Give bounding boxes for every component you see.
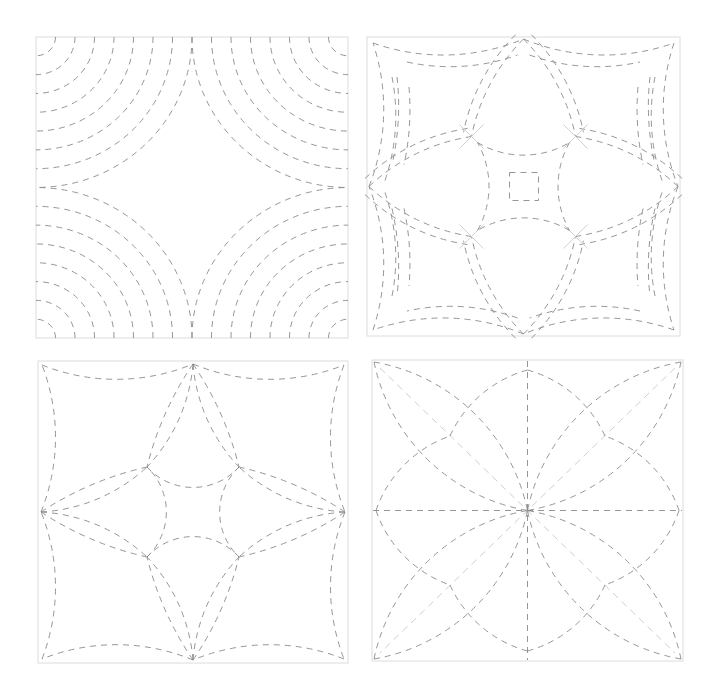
block-concentric-corner-arcs <box>36 37 348 338</box>
corner-arc <box>36 37 114 112</box>
block-four-circle-lens-star <box>38 361 348 663</box>
outer-web-arc <box>524 39 675 55</box>
corner-arc <box>36 37 56 56</box>
outer-web-arc-inner <box>651 77 662 181</box>
corner-arc <box>36 300 75 338</box>
petal-arc-inner <box>193 364 239 467</box>
quilting-patterns-figure <box>0 0 720 694</box>
corner-arc <box>329 37 349 56</box>
outer-concave-arc <box>41 512 56 659</box>
corner-arc <box>36 206 173 338</box>
petal-arc-inner <box>41 512 147 557</box>
block-border <box>367 37 680 336</box>
side-arc <box>404 209 410 287</box>
star-arm <box>576 137 679 187</box>
kite-arc <box>376 436 450 511</box>
star-arm-inner <box>464 35 516 133</box>
corner-arc <box>290 282 349 338</box>
petal-arc-inner <box>239 467 345 512</box>
registration-mark <box>564 225 588 249</box>
circle-arc <box>147 467 239 487</box>
corner-arc <box>231 225 348 338</box>
star-arm <box>369 187 472 237</box>
corner-arc <box>36 37 173 169</box>
corner-arc <box>212 37 349 169</box>
center-square <box>510 173 539 201</box>
corner-arc <box>36 37 95 93</box>
outer-web-arc <box>369 43 384 187</box>
outer-concave-arc <box>42 645 193 660</box>
outer-web-arc <box>524 318 675 334</box>
outer-concave-arc <box>330 365 345 512</box>
outer-web-arc <box>663 187 678 331</box>
corner-arc <box>36 37 153 150</box>
outer-web-arc-inner <box>407 55 518 67</box>
outer-web-arc-inner <box>385 77 396 181</box>
petal-arc-outer <box>239 467 345 512</box>
corner-arc <box>309 37 348 75</box>
petal-arc-inner <box>147 557 193 660</box>
corner-arc <box>36 282 95 338</box>
corner-arc <box>36 225 153 338</box>
corner-arc <box>309 300 348 338</box>
side-arc <box>637 209 643 287</box>
corner-arc <box>36 188 192 339</box>
petal-arc-inner <box>239 512 345 557</box>
circle-arc <box>147 467 166 557</box>
center-star-edge <box>558 143 569 231</box>
outer-concave-arc <box>193 645 344 660</box>
corner-arc <box>36 319 56 338</box>
petal-arc-outer <box>239 512 345 557</box>
kite-arc <box>605 436 679 511</box>
corner-arc <box>270 37 348 112</box>
outer-web-arc-inner <box>530 55 641 67</box>
outer-concave-arc <box>193 364 344 379</box>
outer-concave-arc <box>330 512 345 659</box>
kite-arc <box>605 511 679 586</box>
block-border <box>36 37 348 338</box>
corner-arc <box>329 319 349 338</box>
center-star-edge <box>478 143 570 156</box>
petal-arc-outer <box>193 557 239 660</box>
corner-arc <box>290 37 349 93</box>
corner-arc <box>192 37 348 188</box>
side-arc <box>637 87 643 165</box>
star-arm <box>472 237 524 335</box>
kite-arc <box>528 370 606 436</box>
outer-web-arc <box>369 187 384 331</box>
outer-web-arc-inner <box>385 193 396 297</box>
petal-arc-outer <box>147 364 193 467</box>
block-border <box>38 361 348 663</box>
kite-arc <box>450 585 528 651</box>
corner-arc <box>36 37 75 75</box>
kite-arc <box>528 585 606 651</box>
outer-web-arc-inner <box>651 193 662 297</box>
side-arc <box>404 87 410 165</box>
circle-arc <box>147 537 239 557</box>
corner-arc <box>192 188 348 339</box>
outer-web-arc-inner <box>407 306 518 318</box>
corner-arc <box>231 37 348 150</box>
registration-mark <box>564 125 588 149</box>
center-star-edge <box>478 143 489 231</box>
star-arm <box>472 39 524 137</box>
outer-web-arc <box>663 43 678 187</box>
center-star-edge <box>478 218 570 231</box>
star-arm-inner <box>531 241 583 339</box>
star-arm <box>524 39 576 137</box>
star-arm <box>524 237 576 335</box>
block-spider-web-star <box>365 35 682 338</box>
corner-arc <box>36 37 192 188</box>
petal-arc-outer <box>41 467 147 512</box>
registration-mark <box>460 225 484 249</box>
circle-arc <box>220 467 239 557</box>
outer-web-arc <box>373 318 524 334</box>
outer-concave-arc <box>41 365 56 512</box>
corner-arc <box>270 263 348 338</box>
star-arm <box>576 187 679 237</box>
outer-web-arc-inner <box>530 306 641 318</box>
petal-arc-outer <box>41 512 147 557</box>
registration-mark <box>460 125 484 149</box>
block-leaf-star-with-diagonals <box>372 360 683 661</box>
star-arm <box>369 137 472 187</box>
